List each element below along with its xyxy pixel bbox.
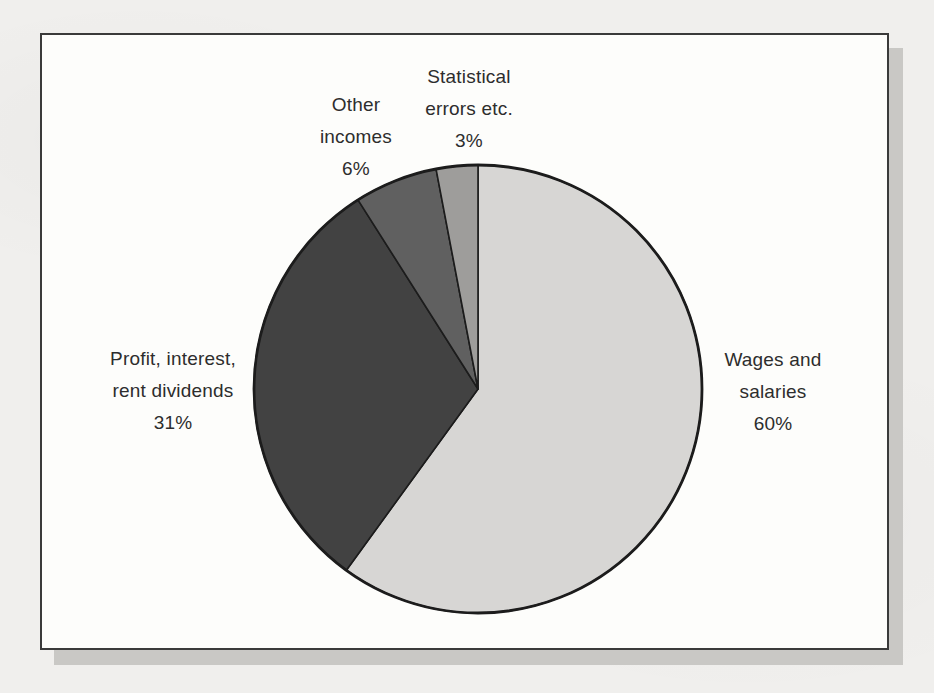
label-line: incomes	[320, 121, 392, 153]
label-line: salaries	[724, 376, 821, 408]
label-line: errors etc.	[425, 93, 513, 125]
label-value: 3%	[425, 125, 513, 157]
label-line: Wages and	[724, 344, 821, 376]
label-value: 6%	[320, 153, 392, 185]
figure-frame: Wages and salaries 60% Profit, interest,…	[40, 33, 889, 650]
label-statistical-errors: Statistical errors etc. 3%	[425, 61, 513, 157]
label-other-incomes: Other incomes 6%	[320, 89, 392, 185]
label-value: 31%	[110, 407, 236, 439]
label-line: Statistical	[425, 61, 513, 93]
pie-slices	[254, 165, 702, 613]
label-line: Profit, interest,	[110, 343, 236, 375]
label-line: Other	[320, 89, 392, 121]
label-wages-and-salaries: Wages and salaries 60%	[724, 344, 821, 440]
label-profit-interest-rent-dividends: Profit, interest, rent dividends 31%	[110, 343, 236, 439]
label-line: rent dividends	[110, 375, 236, 407]
label-value: 60%	[724, 408, 821, 440]
